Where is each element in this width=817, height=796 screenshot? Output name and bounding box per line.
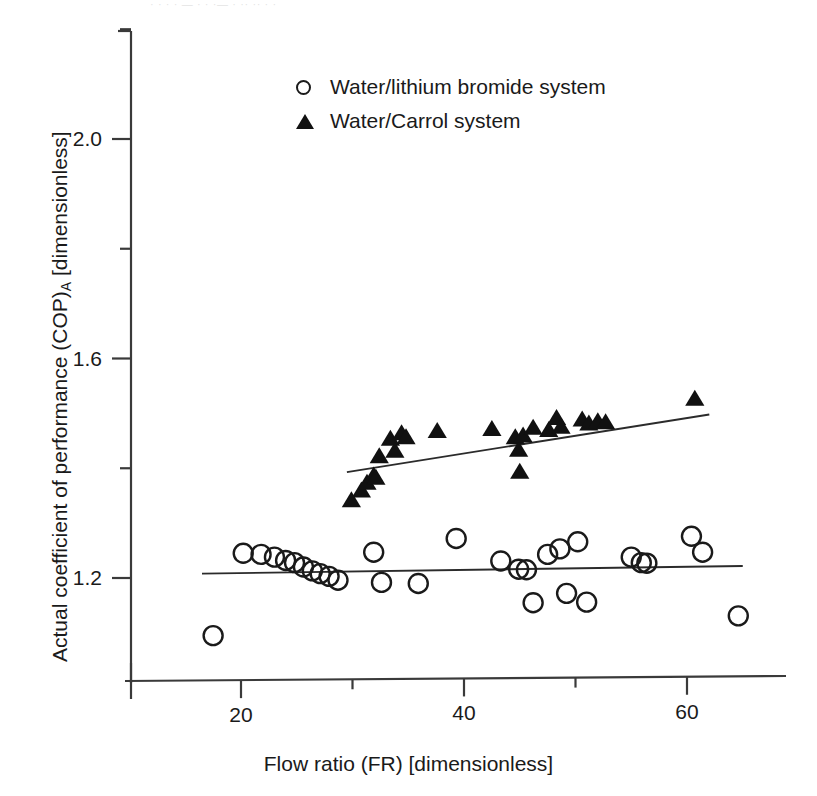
trend-lines — [202, 414, 743, 573]
y-axis-title-main: Actual coefficient of performance (COP) — [48, 291, 71, 662]
x-tick-label: 40 — [424, 702, 504, 723]
y-axis-ticks — [112, 29, 131, 578]
data-point-filled-triangle — [428, 422, 447, 438]
legend-label-water-carrol: Water/Carrol system — [330, 109, 521, 133]
chart-legend: Water/lithium bromide system Water/Carro… — [296, 70, 606, 138]
data-point-open-circle — [372, 573, 391, 592]
data-point-open-circle — [409, 574, 428, 593]
x-tick-label: 60 — [647, 701, 727, 722]
x-tick-label: 20 — [201, 704, 281, 725]
data-point-open-circle — [447, 529, 466, 548]
data-point-open-circle — [524, 593, 543, 612]
filled-triangle-icon — [296, 114, 330, 129]
data-point-open-circle — [204, 626, 223, 645]
data-point-open-circle — [729, 606, 748, 625]
legend-item-water-carrol: Water/Carrol system — [296, 104, 606, 138]
data-point-open-circle — [538, 545, 557, 564]
data-point-filled-triangle — [685, 390, 704, 406]
series-water-lithium-bromide-markers — [204, 527, 748, 645]
data-point-open-circle — [557, 584, 576, 603]
x-axis-title: Flow ratio (FR) [dimensionless] — [0, 752, 817, 776]
data-point-filled-triangle — [482, 420, 501, 436]
open-circle-icon — [296, 80, 330, 95]
chart-figure: · · · · — · · ·— · ·· ·· · · 2.01.61.2 2… — [0, 0, 817, 796]
data-point-open-circle — [568, 532, 587, 551]
y-axis-title: Actual coefficient of performance (COP)A… — [48, 131, 72, 662]
data-point-open-circle — [550, 539, 569, 558]
data-point-open-circle — [364, 543, 383, 562]
data-point-open-circle — [577, 593, 596, 612]
data-point-open-circle — [693, 543, 712, 562]
data-point-open-circle — [234, 544, 253, 563]
data-point-open-circle — [491, 551, 510, 570]
data-point-filled-triangle — [524, 419, 543, 435]
data-point-filled-triangle — [370, 447, 389, 463]
legend-label-water-lithium-bromide: Water/lithium bromide system — [330, 75, 606, 99]
data-point-open-circle — [252, 545, 271, 564]
y-axis-title-subscript: A — [58, 282, 74, 291]
y-axis-title-unit: [dimensionless] — [48, 131, 71, 282]
series-water-carrol-markers — [342, 390, 705, 508]
data-point-open-circle — [265, 548, 284, 567]
data-point-filled-triangle — [510, 463, 529, 479]
legend-item-water-lithium-bromide: Water/lithium bromide system — [296, 70, 606, 104]
